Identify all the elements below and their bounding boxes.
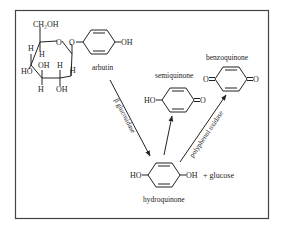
polyphenol-oxidase-arrow	[180, 95, 226, 162]
ring-oxygen-label: O	[56, 38, 62, 47]
benzoquinone-label: benzoquinone	[206, 53, 249, 62]
glucose-byproduct-label: + glucose	[203, 171, 234, 180]
semiquinone-structure	[156, 88, 200, 112]
semiquinone-label: semiquinone	[155, 71, 194, 80]
phenol-oh-label: OH	[121, 38, 133, 47]
hydroquinone-label: hydroquinone	[143, 195, 185, 204]
arbutin-label: arbutin	[92, 63, 113, 72]
h-label: H	[38, 85, 44, 94]
oh-label: OH	[38, 61, 50, 70]
glycosidic-oxygen-label: O	[69, 38, 75, 47]
hydroquinone-oh-label: OH	[186, 171, 198, 180]
ho-label: HO	[21, 67, 33, 76]
benzoquinone-left-o-label: O	[203, 75, 209, 84]
h-label: H	[39, 50, 45, 59]
beta-glucosidase-label: β glucosidase	[112, 97, 137, 134]
oh-label: OH	[56, 85, 68, 94]
semiquinone-arrow	[164, 116, 172, 155]
semiquinone-ho-label: HO	[144, 96, 156, 105]
polyphenol-oxidase-label: polyphenol oxidase	[188, 109, 225, 159]
ch2oh-label: CH₂OH	[33, 20, 59, 29]
benzoquinone-right-o-label: O	[253, 75, 259, 84]
h-label: H	[28, 44, 34, 53]
h-label: H	[57, 61, 63, 70]
hydroquinone-ho-label: HO	[130, 171, 142, 180]
h-label: H	[70, 66, 76, 75]
semiquinone-o-label: O	[200, 96, 206, 105]
hydroquinone-structure	[142, 163, 186, 187]
benzoquinone-structure	[209, 67, 253, 91]
reaction-diagram: CH₂OH O O H H HO OH H H H OH OH arbutin …	[0, 0, 281, 230]
